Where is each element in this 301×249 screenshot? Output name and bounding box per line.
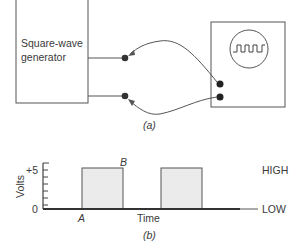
pulse-2 [161,168,202,209]
high-level-label: HIGH [262,164,288,177]
oscilloscope-input-bottom [217,94,224,101]
oscilloscope-input-top [217,81,224,88]
probe-wire-bottom [130,97,217,114]
caption-b: (b) [143,229,156,242]
y-axis-label: Volts [14,175,27,198]
point-a-label: A [78,212,85,225]
probe-wire-top [130,41,217,82]
x-axis-label: Time [137,212,160,225]
square-wave-trace-icon [233,45,265,52]
y-axis-ticks [43,163,49,205]
generator-label-line2: generator [21,51,66,64]
caption-a: (a) [143,119,156,132]
generator-terminal-top [122,55,129,62]
pulse-1 [82,168,123,209]
low-level-label: LOW [262,203,286,216]
generator-terminal-bottom [122,93,129,100]
y-tick-label-0: 0 [32,203,38,216]
y-tick-label-5: +5 [26,164,38,177]
point-b-label: B [120,156,127,169]
generator-label-line1: Square-wave [21,37,83,50]
arrowhead-top [128,50,135,56]
